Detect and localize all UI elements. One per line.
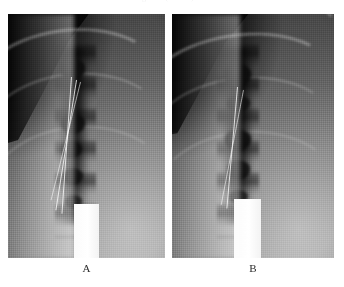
panel-label-b: B <box>172 262 334 274</box>
xray-vignette-a <box>8 14 165 258</box>
figure-panel: A B <box>0 0 344 287</box>
panel-a-letter: A <box>83 262 91 274</box>
panel-label-a: A <box>8 262 165 274</box>
panel-b-letter: B <box>249 262 256 274</box>
radiograph-panel-b[interactable] <box>172 14 334 258</box>
xray-vignette-b <box>172 14 334 258</box>
radiograph-panel-a[interactable] <box>8 14 165 258</box>
